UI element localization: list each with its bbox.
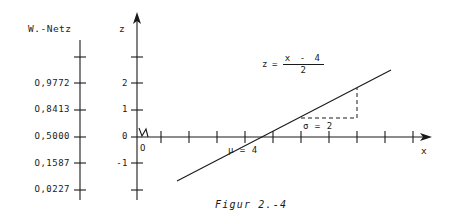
probability-axis-label: W.-Netz xyxy=(28,24,72,34)
figure-caption: Figur 2.-4 xyxy=(215,200,287,210)
figure-2-4: W.-Netz O,9772 O,8413 O,5000 O,1587 O,02… xyxy=(0,0,450,224)
z-tick-label: -1 xyxy=(101,159,128,168)
line-equation: z = x - 4 2 xyxy=(262,54,325,75)
probability-tick-label: O,5000 xyxy=(4,132,70,141)
mu-annotation: μ = 4 xyxy=(228,146,258,155)
x-axis-label: x xyxy=(421,146,427,156)
transform-line xyxy=(177,70,391,181)
equation-fraction: x - 4 2 xyxy=(283,54,324,75)
probability-tick-label: O,0227 xyxy=(4,185,70,194)
z-tick-label: 0 xyxy=(104,132,128,141)
probability-tick-label: O,8413 xyxy=(4,105,70,114)
z-tick-label: 1 xyxy=(104,105,128,114)
fraction-denominator: 2 xyxy=(283,65,324,75)
axis-break-zigzag xyxy=(139,128,148,137)
z-axis xyxy=(131,20,143,200)
probability-tick-label: O,1587 xyxy=(4,159,70,168)
z-tick-label: 2 xyxy=(104,79,128,88)
probability-axis xyxy=(74,40,86,200)
origin-label: O xyxy=(140,144,146,153)
probability-tick-label: O,9772 xyxy=(4,79,70,88)
x-axis xyxy=(143,131,424,143)
z-axis-label: z xyxy=(119,24,125,34)
equation-equals: = xyxy=(272,60,278,69)
equation-lhs: z xyxy=(262,60,268,69)
fraction-numerator: x - 4 xyxy=(283,54,324,65)
sigma-annotation: σ = 2 xyxy=(303,122,333,131)
